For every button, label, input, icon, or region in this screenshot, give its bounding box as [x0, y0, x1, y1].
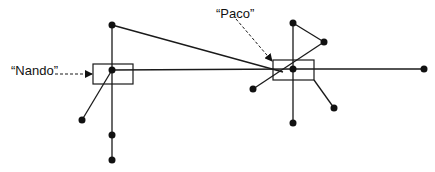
node-nando — [109, 67, 116, 74]
node-nando-bottom-2 — [109, 157, 116, 164]
node-nando-lower-left — [79, 117, 86, 124]
edge-ntop-paco — [112, 25, 283, 72]
nando-label: “Nando” — [11, 63, 58, 78]
node-nando-top — [109, 22, 116, 29]
node-nando-bottom-1 — [109, 132, 116, 139]
node-paco-lower-right — [331, 105, 338, 112]
edge-pur-pl — [253, 42, 324, 89]
node-paco-bottom — [290, 120, 297, 127]
node-paco-upper-right — [321, 39, 328, 46]
paco-label: “Paco” — [216, 6, 254, 21]
node-paco — [290, 66, 297, 73]
network-diagram: “Nando” “Paco” — [0, 0, 435, 172]
nodes — [79, 20, 428, 164]
node-paco-left — [250, 86, 257, 93]
node-far-right — [421, 66, 428, 73]
edge-nando-paco — [112, 69, 293, 70]
edge-ptop-pur — [293, 23, 324, 42]
edge-nando-nll — [82, 70, 112, 120]
paco-pointer-arrow — [236, 19, 272, 61]
edge-paco-plr — [314, 80, 334, 108]
node-paco-top — [290, 20, 297, 27]
